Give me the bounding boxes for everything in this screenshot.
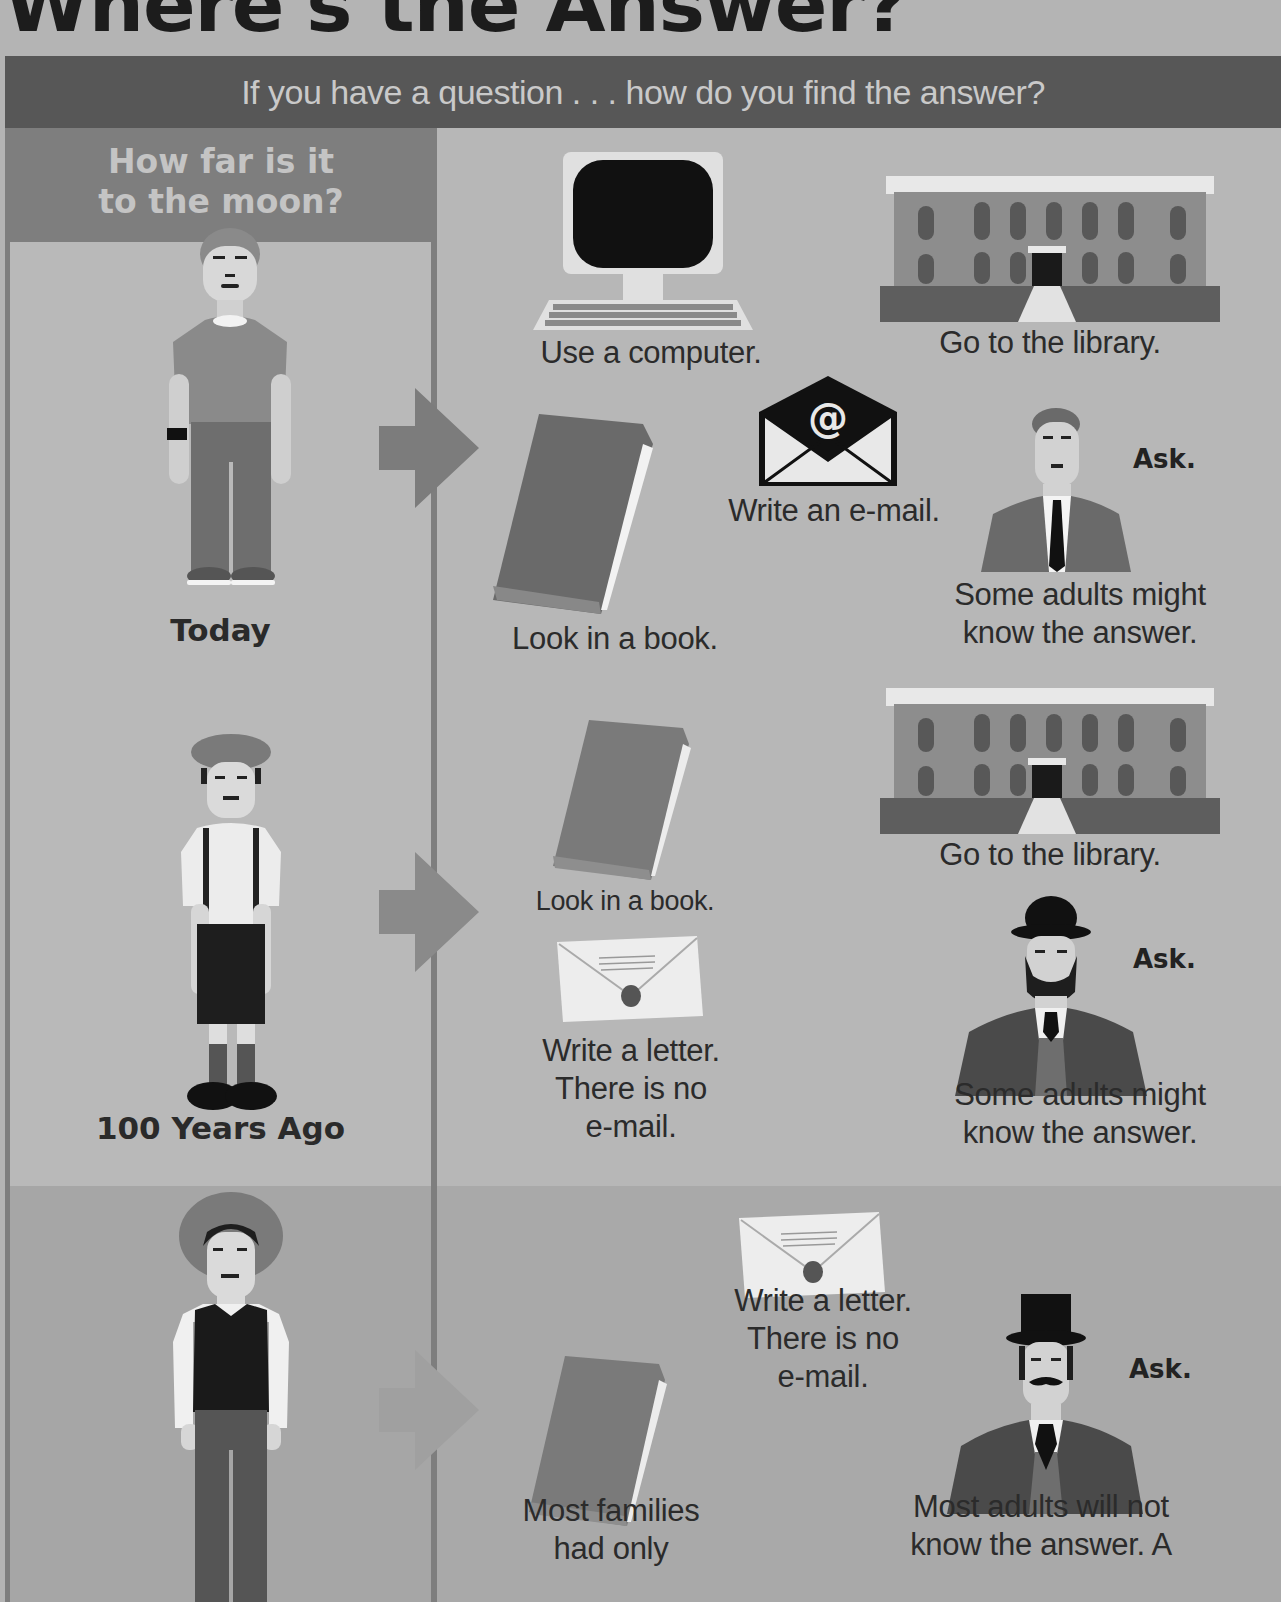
- caption-look-in-book-2: Look in a book.: [505, 882, 745, 920]
- svg-text:@: @: [808, 395, 848, 441]
- man-suit-icon: [971, 406, 1151, 572]
- arrow-right-icon: [379, 1350, 479, 1470]
- caption-most-families: Most families had only: [481, 1492, 741, 1568]
- man-tophat-icon: [945, 1294, 1145, 1514]
- ask-label: Ask.: [1133, 944, 1196, 974]
- caption-some-adults: Some adults might know the answer.: [925, 576, 1235, 652]
- caption-write-letter: Write a letter. There is no e-mail.: [501, 1032, 761, 1146]
- caption-write-email: Write an e-mail.: [709, 492, 959, 530]
- caption-most-adults-will-not: Most adults will not know the answer. A: [871, 1488, 1211, 1564]
- email-envelope-icon: @: [757, 374, 899, 490]
- ask-label: Ask.: [1133, 444, 1196, 474]
- arrow-right-icon: [379, 852, 479, 972]
- boy-hat-vest-icon: [151, 1192, 311, 1602]
- infographic-frame: How far is it to the moon? Today Use a c…: [5, 128, 1281, 1602]
- ask-label: Ask.: [1129, 1354, 1192, 1384]
- boy-flatcap-icon: [157, 732, 303, 1122]
- arrow-right-icon: [379, 388, 479, 508]
- row-label-today: Today: [10, 612, 431, 648]
- question-line-1: How far is it: [5, 142, 437, 182]
- book-icon: [547, 720, 717, 880]
- book-icon: [483, 414, 703, 614]
- letter-envelope-icon: [557, 936, 703, 1026]
- library-icon: [880, 680, 1220, 840]
- caption-write-letter-2: Write a letter. There is no e-mail.: [693, 1282, 953, 1396]
- caption-go-to-library: Go to the library.: [885, 324, 1215, 362]
- row-label-100-years-ago: 100 Years Ago: [10, 1110, 431, 1146]
- question-banner: If you have a question . . . how do you …: [5, 56, 1281, 128]
- library-icon: [880, 168, 1220, 328]
- caption-look-in-book: Look in a book.: [475, 620, 755, 658]
- question-line-2: to the moon?: [5, 182, 437, 222]
- page-title: Where's the Answer?: [4, 0, 908, 48]
- caption-use-computer: Use a computer.: [501, 334, 801, 372]
- caption-some-adults-2: Some adults might know the answer.: [925, 1076, 1235, 1152]
- boy-modern-icon: [155, 224, 305, 604]
- man-bowler-icon: [951, 896, 1151, 1096]
- computer-icon: [523, 150, 763, 335]
- caption-go-to-library-2: Go to the library.: [885, 836, 1215, 874]
